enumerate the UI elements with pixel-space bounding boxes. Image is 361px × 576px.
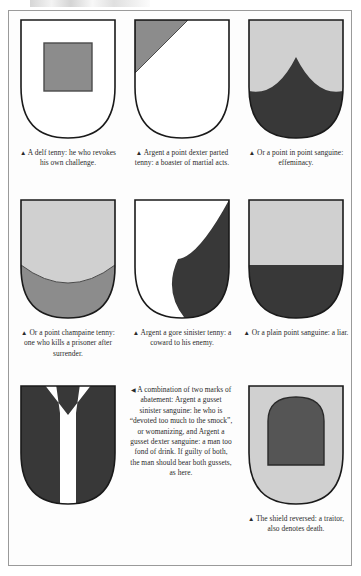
heraldry-plate-page: ▲ A delf tenny: he who revokes his own c… xyxy=(0,0,361,576)
figure-grid: ▲ A delf tenny: he who revokes his own c… xyxy=(9,11,353,567)
caption-block-both-gussets: ◀ A combination of two marks of abatemen… xyxy=(125,383,239,479)
up-triangle-icon: ▲ xyxy=(136,149,142,156)
inverted-shield-charge-sanguine xyxy=(268,397,324,465)
figure-point-champaine-tenny: ▲ Or a point champaine tenny: one who ki… xyxy=(11,197,125,359)
shield-point-dexter-parted-graphic xyxy=(132,17,232,141)
scan-text-remnant xyxy=(30,0,150,7)
left-triangle-icon: ◀ xyxy=(131,386,136,393)
caption-delf-tenny: ▲ A delf tenny: he who revokes his own c… xyxy=(11,145,125,169)
up-triangle-icon: ▲ xyxy=(133,329,139,336)
figure-point-in-point-sanguine: ▲ Or a point in point sanguine: effemina… xyxy=(239,17,353,169)
shield-plain-point-graphic xyxy=(246,197,346,321)
shield-gore-sinister-graphic xyxy=(132,197,232,321)
shield-reversed-graphic xyxy=(246,383,346,507)
caption-text: A combination of two marks of abatement:… xyxy=(130,385,233,477)
shield-point-champaine-graphic xyxy=(18,197,118,321)
figure-shield-reversed: ▲ The shield reversed: a traitor, also d… xyxy=(239,383,353,535)
caption-text: Argent a point dexter parted tenny: a bo… xyxy=(135,148,229,167)
shield-both-gussets-sanguine xyxy=(11,383,125,511)
caption-text: Or a plain point sanguine: a liar. xyxy=(252,328,349,337)
shield-delf-tenny-graphic xyxy=(18,17,118,141)
plain-point-charge-sanguine xyxy=(246,265,346,321)
shield-point-champaine-tenny xyxy=(11,197,125,325)
caption-plain-point-sanguine: ▲ Or a plain point sanguine: a liar. xyxy=(239,325,353,338)
figure-delf-tenny: ▲ A delf tenny: he who revokes his own c… xyxy=(11,17,125,169)
caption-gore-sinister-tenny: ▲ Argent a gore sinister tenny: a coward… xyxy=(125,325,239,349)
caption-both-gussets-text-wrap: ◀ A combination of two marks of abatemen… xyxy=(125,383,239,479)
caption-point-dexter-parted-tenny: ▲ Argent a point dexter parted tenny: a … xyxy=(125,145,239,169)
shield-point-dexter-parted-tenny xyxy=(125,17,239,145)
figure-gore-sinister-tenny: ▲ Argent a gore sinister tenny: a coward… xyxy=(125,197,239,349)
up-triangle-icon: ▲ xyxy=(20,149,26,156)
caption-shield-reversed: ▲ The shield reversed: a traitor, also d… xyxy=(239,511,353,535)
shield-delf-tenny xyxy=(11,17,125,145)
figure-plain-point-sanguine: ▲ Or a plain point sanguine: a liar. xyxy=(239,197,353,338)
shield-plain-point-sanguine xyxy=(239,197,353,325)
up-triangle-icon: ▲ xyxy=(248,515,254,522)
shield-reversed xyxy=(239,383,353,511)
up-triangle-icon: ▲ xyxy=(21,329,27,336)
figure-point-dexter-parted-tenny: ▲ Argent a point dexter parted tenny: a … xyxy=(125,17,239,169)
shield-both-gussets-graphic xyxy=(18,383,118,507)
shield-point-in-point-sanguine xyxy=(239,17,353,145)
charge-clip-group xyxy=(246,265,346,321)
up-triangle-icon: ▲ xyxy=(249,149,255,156)
caption-text: A delf tenny: he who revokes his own cha… xyxy=(28,148,116,167)
content-frame: ▲ A delf tenny: he who revokes his own c… xyxy=(8,10,352,566)
shield-point-in-point-graphic xyxy=(246,17,346,141)
caption-text: Or a point in point sanguine: effeminacy… xyxy=(257,148,343,167)
caption-point-in-point-sanguine: ▲ Or a point in point sanguine: effemina… xyxy=(239,145,353,169)
caption-text: The shield reversed: a traitor, also den… xyxy=(256,514,344,533)
caption-text: Argent a gore sinister tenny: a coward t… xyxy=(141,328,232,347)
shield-gore-sinister-tenny xyxy=(125,197,239,325)
caption-text: Or a point champaine tenny: one who kill… xyxy=(24,328,115,358)
up-triangle-icon: ▲ xyxy=(243,329,249,336)
delf-charge-tenny xyxy=(44,43,92,91)
figure-both-gussets-sanguine xyxy=(11,383,125,511)
caption-point-champaine-tenny: ▲ Or a point champaine tenny: one who ki… xyxy=(11,325,125,359)
